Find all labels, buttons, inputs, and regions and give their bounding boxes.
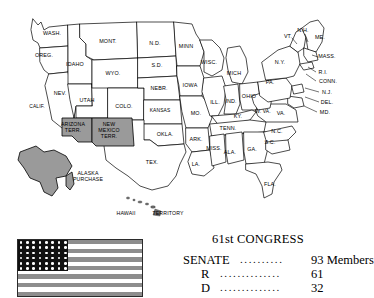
state-label-ohio: OHIO	[242, 93, 256, 99]
state-label-mo: MO.	[191, 110, 202, 116]
state-label-ark: ARK.	[189, 136, 202, 142]
flag-star	[39, 262, 42, 265]
state-label-wisc: WISC.	[201, 59, 217, 65]
democrat-label: D	[201, 281, 210, 296]
flag-star	[58, 252, 61, 255]
flag-star	[45, 257, 48, 260]
flag-star	[58, 246, 61, 249]
state-label-oreg: OREG.	[35, 52, 53, 58]
state-label-utah: UTAH	[80, 97, 95, 103]
flag-star	[26, 252, 29, 255]
state-label-nj: N.J.	[322, 89, 332, 95]
united-states-flag	[17, 239, 143, 297]
flag-star	[20, 262, 23, 265]
state-label-conn: CONN.	[319, 78, 337, 84]
territory-label-hawaii-terr: TERRITORY	[152, 211, 183, 217]
flag-star	[58, 257, 61, 260]
flag-star	[39, 257, 42, 260]
flag-star	[45, 241, 48, 244]
flag-star	[26, 257, 29, 260]
republican-row: R .............. 61	[178, 267, 353, 281]
flag-star	[26, 267, 29, 270]
senate-label: SENATE	[183, 253, 230, 268]
flag-star	[39, 252, 42, 255]
state-label-okla: OKLA.	[157, 131, 174, 137]
flag-star	[64, 267, 67, 270]
democrat-dots: ..............	[220, 281, 312, 293]
state-label-miss: MISS.	[206, 145, 221, 151]
flag-star	[45, 267, 48, 270]
state-label-ala: ALA.	[224, 149, 236, 155]
state-label-nev: NEV.	[54, 90, 67, 96]
republican-dots: ..............	[220, 267, 312, 279]
flag-star	[51, 257, 54, 260]
state-label-iowa: IOWA	[183, 82, 198, 88]
state-label-mass: MASS.	[318, 53, 336, 59]
flag-star	[45, 262, 48, 265]
flag-star	[32, 267, 35, 270]
flag-star	[32, 246, 35, 249]
flag-star	[26, 246, 29, 249]
state-label-sc: S.C.	[264, 139, 275, 145]
state-label-pa: PA.	[266, 79, 275, 85]
state-label-ny: N.Y.	[275, 59, 285, 65]
state-label-idaho: IDAHO	[66, 61, 84, 67]
flag-star	[58, 267, 61, 270]
state-label-calif: CALIF.	[29, 104, 45, 109]
flag-star	[39, 246, 42, 249]
state-label-va: VA.	[277, 110, 286, 116]
flag-star	[51, 267, 54, 270]
state-label-la: LA.	[192, 161, 201, 167]
flag-star	[64, 246, 67, 249]
flag-star	[32, 252, 35, 255]
state-label-wash: WASH.	[43, 30, 61, 36]
state-label-ky: KY.	[234, 113, 242, 119]
flag-star	[20, 246, 23, 249]
flag-star	[58, 241, 61, 244]
flag-star	[39, 241, 42, 244]
flag-star	[20, 257, 23, 260]
alaska-purchase-shape	[18, 146, 72, 196]
state-label-tenn: TENN.	[220, 125, 237, 131]
flag-star	[45, 246, 48, 249]
senate-dots: ..........	[240, 253, 312, 265]
republican-value: 61	[311, 267, 324, 282]
state-label-fla: FLA.	[264, 181, 276, 187]
flag-star	[64, 262, 67, 265]
state-label-del: DEL.	[321, 99, 334, 105]
flag-star	[20, 252, 23, 255]
democrat-value: 32	[311, 281, 324, 296]
state-label-mich: MICH	[227, 70, 241, 76]
state-label-nd: N.D.	[149, 40, 160, 46]
senate-value: 93 Members	[311, 253, 374, 268]
flag-star	[64, 257, 67, 260]
flag-star	[51, 262, 54, 265]
flag-star	[51, 246, 54, 249]
flag-star	[20, 241, 23, 244]
congress-info: 61st CONGRESS SENATE .......... 93 Membe…	[178, 228, 353, 298]
state-label-ind: IND.	[225, 98, 236, 104]
state-label-colo: COLO.	[115, 103, 133, 109]
territory-label-hawaii: HAWAII	[117, 211, 136, 217]
flag-star	[26, 262, 29, 265]
state-label-nebr: NEBR.	[150, 85, 167, 91]
state-label-kansas: KANSAS	[150, 108, 171, 113]
democrat-row: D .............. 32	[178, 281, 353, 295]
flag-stripe	[18, 292, 142, 296]
flag-star	[32, 257, 35, 260]
state-label-minn: MINN	[179, 43, 193, 49]
flag-star	[45, 252, 48, 255]
senate-row: SENATE .......... 93 Members	[178, 253, 353, 267]
flag-star-canton	[18, 240, 68, 271]
state-label-mont: MONT.	[99, 38, 117, 44]
state-label-me: ME.	[315, 34, 325, 40]
flag-star	[32, 262, 35, 265]
territory-label-new-mexico: NEWMEXICOTERR.	[98, 122, 119, 139]
flag-star	[26, 241, 29, 244]
bottom-panel: 61st CONGRESS SENATE .......... 93 Membe…	[0, 228, 353, 298]
state-label-ri: R.I.	[319, 69, 328, 75]
state-label-nc: N.C.	[271, 128, 282, 134]
territory-label-arizona: ARIZONATERR.	[61, 122, 85, 134]
republican-label: R	[201, 267, 209, 282]
